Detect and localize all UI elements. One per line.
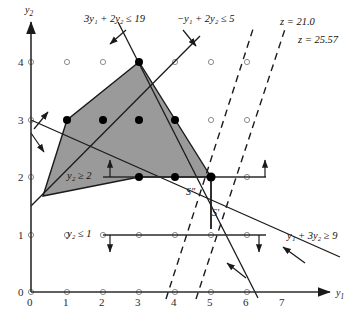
constraint-label-3: y₂ ≥ 2: [67, 170, 92, 181]
region-label-s-prime: S′: [212, 207, 219, 218]
direction-arrow-c5: [283, 247, 305, 263]
x-tick-3: 3: [135, 296, 141, 308]
x-tick-7: 7: [279, 296, 285, 308]
y-axis-label: y2: [25, 4, 33, 18]
x-tick-1: 1: [63, 296, 69, 308]
constraint-label-5: y₁ + 3y₂ ≥ 9: [287, 230, 337, 241]
y-tick-1: 1: [18, 229, 24, 241]
x-axis-label: y1: [336, 287, 344, 301]
y-tick-0: 0: [18, 286, 24, 298]
direction-arrow-c1: [110, 30, 126, 44]
y-tick-4: 4: [18, 56, 24, 68]
objective-label-z-2557: z = 25.57: [298, 34, 338, 45]
direction-arrow-c2: [183, 30, 196, 46]
x-tick-0: 0: [27, 296, 33, 308]
y-tick-3: 3: [18, 114, 24, 126]
x-tick-6: 6: [243, 296, 249, 308]
objective-label-z-21: z = 21.0: [280, 16, 315, 27]
constraint-label-4: y₂ ≤ 1: [67, 228, 92, 239]
figure-canvas: 0 1 2 3 4 5 6 7 0 1 2 3 4 y1 y2 3y₁ + 2y…: [0, 0, 361, 322]
x-tick-2: 2: [99, 296, 105, 308]
x-tick-4: 4: [171, 296, 177, 308]
x-tick-5: 5: [207, 296, 213, 308]
plot-svg: [0, 0, 361, 322]
constraint-label-1: 3y₁ + 2y₂ ≤ 19: [84, 13, 145, 24]
direction-arrow-c1-lower: [227, 263, 246, 278]
y-tick-2: 2: [18, 171, 24, 183]
direction-arrow-c3-axis: [31, 133, 44, 152]
constraint-label-2: −y₁ + 2y₂ ≤ 5: [177, 13, 235, 24]
region-label-s-double-prime: S″: [186, 186, 195, 197]
